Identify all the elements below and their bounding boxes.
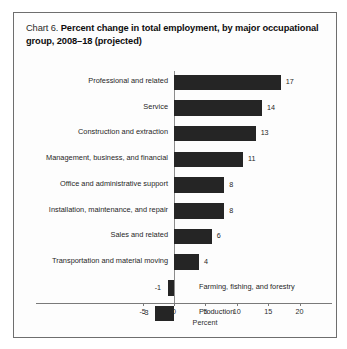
table-row: Construction and extraction13 (14, 122, 338, 148)
category-label: Sales and related (110, 230, 168, 239)
table-row: Professional and related17 (14, 71, 338, 97)
x-axis-tick (300, 303, 301, 306)
bar (174, 254, 199, 270)
table-row: Office and administrative support8 (14, 174, 338, 200)
value-label: 17 (286, 77, 294, 86)
bar (174, 152, 243, 168)
x-axis-tick (205, 303, 206, 306)
table-row: Installation, maintenance, and repair8 (14, 200, 338, 226)
bar (168, 280, 174, 296)
bar (174, 126, 256, 142)
x-axis-tick-label: 5 (203, 307, 207, 316)
x-axis-tick (143, 303, 144, 306)
value-label: 14 (267, 103, 275, 112)
bar (174, 177, 224, 193)
category-label: Transportation and material moving (52, 256, 168, 265)
value-label: 6 (217, 231, 221, 240)
table-row: Transportation and material moving4 (14, 251, 338, 277)
x-axis-tick-label: 0 (172, 307, 176, 316)
x-axis-tick-label: 10 (233, 307, 241, 316)
bar (174, 100, 262, 116)
table-row: Service14 (14, 97, 338, 123)
page-title: Chart 6. Percent change in total employm… (26, 22, 322, 48)
bar (174, 203, 224, 219)
chart-title-text: Percent change in total employment, by m… (26, 23, 319, 46)
bar (174, 229, 212, 245)
category-label: Construction and extraction (78, 127, 168, 136)
table-row: Farming, fishing, and forestry-1 (14, 277, 338, 303)
value-label: 4 (204, 257, 208, 266)
table-row: Sales and related6 (14, 225, 338, 251)
plot-area: Professional and related17Service14Const… (14, 71, 338, 339)
category-label: Professional and related (88, 76, 168, 85)
chart-frame: Chart 6. Percent change in total employm… (13, 12, 337, 338)
bar (174, 75, 281, 91)
value-label: 13 (261, 128, 269, 137)
category-label: Office and administrative support (60, 179, 168, 188)
value-label: 11 (248, 154, 255, 163)
category-label: Installation, maintenance, and repair (49, 205, 168, 214)
chart-number: Chart 6. (26, 23, 58, 33)
value-label: -1 (155, 283, 161, 292)
category-label: Management, business, and financial (46, 153, 168, 162)
x-axis-tick-label: -5 (139, 307, 145, 316)
x-axis-tick-label: 15 (264, 307, 272, 316)
value-label: 8 (229, 206, 233, 215)
x-axis-tick-label: 20 (296, 307, 304, 316)
x-axis-title: Percent (193, 318, 218, 327)
table-row: Management, business, and financial11 (14, 148, 338, 174)
x-axis-tick (268, 303, 269, 306)
category-label: Farming, fishing, and forestry (199, 282, 295, 291)
x-axis-tick (174, 303, 175, 306)
value-label: 8 (229, 180, 233, 189)
table-row: Production-3 (14, 302, 338, 328)
x-axis-tick (237, 303, 238, 306)
category-label: Service (143, 102, 168, 111)
